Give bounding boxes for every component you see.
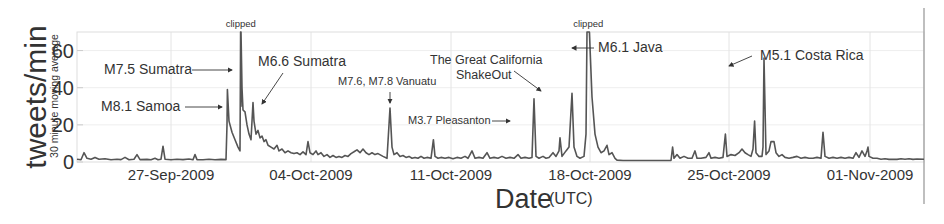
- x-tick-label: 25-Oct-2009: [687, 166, 770, 183]
- x-tick-label: 01-Nov-2009: [827, 166, 914, 183]
- x-tick-label: 18-Oct-2009: [548, 166, 631, 183]
- event-annotation: ShakeOut: [456, 68, 512, 82]
- x-axis-label-suffix: (UTC): [549, 190, 593, 207]
- y-tick-label: 0: [63, 151, 74, 173]
- event-annotation: M5.1 Costa Rica: [760, 47, 864, 63]
- event-annotation: M6.1 Java: [598, 39, 663, 55]
- x-tick-label: 27-Sep-2009: [128, 166, 215, 183]
- x-tick-label: 04-Oct-2009: [269, 166, 352, 183]
- event-annotation: M7.5 Sumatra: [104, 61, 192, 77]
- x-tick-label: 11-Oct-2009: [410, 166, 492, 183]
- event-annotation: M3.7 Pleasanton: [408, 114, 491, 126]
- tweets-per-minute-chart: 0204060 27-Sep-200904-Oct-200911-Oct-200…: [0, 0, 944, 224]
- annotations: clippedclippedM7.5 SumatraM8.1 SamoaM6.6…: [101, 18, 864, 126]
- event-annotation: M7.6, M7.8 Vanuatu: [338, 75, 436, 87]
- event-annotation: M6.6 Sumatra: [258, 53, 346, 69]
- event-annotation: M8.1 Samoa: [101, 98, 181, 114]
- x-axis-label: Date: [495, 184, 552, 214]
- annotation-arrow: [262, 73, 283, 104]
- y-axis-sublabel: 30 minute moving average: [48, 34, 60, 158]
- clipped-label: clipped: [573, 18, 603, 29]
- annotation-arrow: [729, 56, 752, 66]
- event-annotation: The Great California: [430, 53, 543, 67]
- clipped-label: clipped: [226, 18, 256, 29]
- x-axis-ticks: 27-Sep-200904-Oct-200911-Oct-200918-Oct-…: [128, 166, 914, 183]
